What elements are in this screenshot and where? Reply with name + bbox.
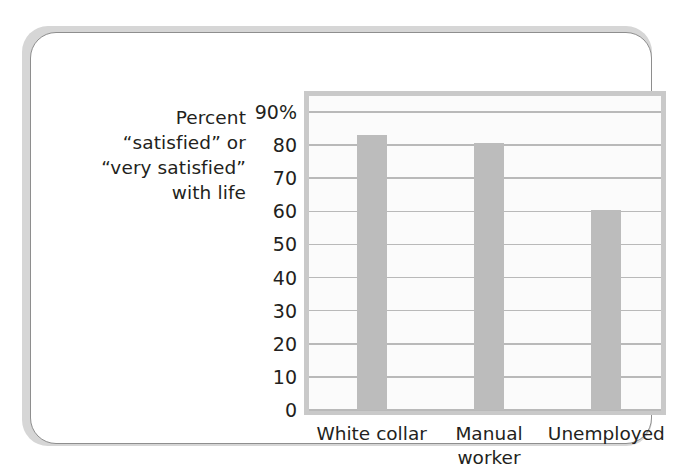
y-axis-caption-line-4: with life xyxy=(83,180,246,205)
y-axis-caption-line-1: Percent xyxy=(83,105,246,130)
y-tick-label-50: 50 xyxy=(237,235,297,254)
y-tick-label-30: 30 xyxy=(237,301,297,320)
x-tick-label-line: worker xyxy=(455,446,522,470)
y-tick-label-90: 90% xyxy=(237,103,297,122)
x-tick-label: Manualworker xyxy=(455,422,522,470)
x-tick-label-line: White collar xyxy=(316,422,426,446)
plot-area xyxy=(304,91,666,415)
x-tick-label: Unemployed xyxy=(548,422,665,446)
y-tick-label-60: 60 xyxy=(237,202,297,221)
y-tick-label-80: 80 xyxy=(237,136,297,155)
x-tick-label-line: Unemployed xyxy=(548,422,665,446)
bar xyxy=(474,143,504,410)
y-axis-tick-labels: 0102030405060708090% xyxy=(231,91,297,415)
x-tick-label-line: Manual xyxy=(455,422,522,446)
x-axis-tick-labels: White collarManualworkerUnemployed xyxy=(304,422,666,470)
figure-card: Percent “satisfied” or “very satisfied” … xyxy=(30,32,652,444)
gridline-90 xyxy=(309,111,661,113)
y-tick-label-70: 70 xyxy=(237,169,297,188)
bar xyxy=(591,210,621,410)
y-tick-label-20: 20 xyxy=(237,334,297,353)
y-axis-caption-line-2: “satisfied” or xyxy=(83,130,246,155)
x-tick-label: White collar xyxy=(316,422,426,446)
y-axis-caption: Percent “satisfied” or “very satisfied” … xyxy=(83,105,246,205)
y-tick-label-40: 40 xyxy=(237,268,297,287)
y-axis-caption-line-3: “very satisfied” xyxy=(83,155,246,180)
y-tick-label-10: 10 xyxy=(237,367,297,386)
figure-root: Percent “satisfied” or “very satisfied” … xyxy=(0,0,681,470)
bar xyxy=(357,135,387,410)
plot-inner xyxy=(309,96,661,410)
y-tick-label-0: 0 xyxy=(237,401,297,420)
